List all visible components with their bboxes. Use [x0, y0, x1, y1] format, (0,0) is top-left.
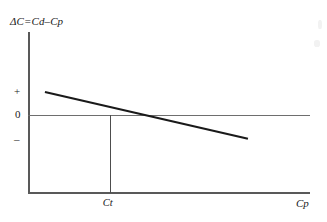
data-line-layer	[0, 0, 327, 222]
x-tick-ct: Ct	[103, 198, 113, 209]
y-tick-zero: 0	[15, 109, 21, 120]
y-tick-positive: +	[14, 86, 20, 97]
x-axis-title: Cp	[296, 198, 309, 209]
y-tick-negative: –	[14, 134, 20, 145]
chart-figure: ΔC=Cd–Cp Cp + 0 – Ct	[0, 0, 327, 222]
data-line-delta-c	[45, 92, 248, 139]
y-axis-title: ΔC=Cd–Cp	[10, 16, 63, 27]
